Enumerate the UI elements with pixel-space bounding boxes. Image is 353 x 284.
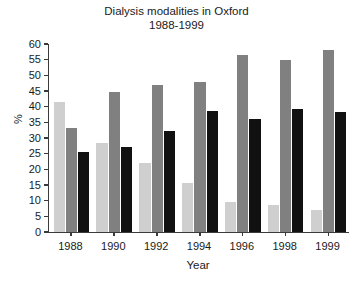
bar-series-3-black-1998 <box>292 109 303 232</box>
bar-series-2-medium-gray-1992 <box>152 85 163 232</box>
x-axis-tick-label: 1990 <box>101 240 125 253</box>
y-axis-tick-label: 0 <box>35 226 44 237</box>
bar-series-3-black-1992 <box>164 131 175 232</box>
x-axis-tick-label: 1994 <box>187 240 211 253</box>
bar-series-1-light-gray-1988 <box>54 102 65 232</box>
bar-group <box>225 44 261 232</box>
x-axis-tick-label: 1992 <box>144 240 168 253</box>
y-axis-tick-label: 5 <box>35 210 44 221</box>
bars-container <box>49 44 349 232</box>
bar-series-1-light-gray-1996 <box>225 202 236 232</box>
x-axis-labels: 1988199019921994199619981999 <box>48 240 348 256</box>
bar-series-2-medium-gray-1994 <box>194 82 205 232</box>
x-axis-tick-label: 1998 <box>272 240 296 253</box>
y-axis-tick-label: 35 <box>29 116 44 127</box>
x-axis-tick-mark <box>199 232 201 236</box>
bar-series-1-light-gray-1992 <box>139 163 150 232</box>
y-axis-tick-label: 30 <box>29 132 44 143</box>
bar-group <box>54 44 90 232</box>
y-axis-tick-label: 10 <box>29 195 44 206</box>
bar-series-3-black-1988 <box>78 152 89 232</box>
bar-series-1-light-gray-1990 <box>96 143 107 232</box>
x-axis-ticks <box>48 232 348 240</box>
bar-series-1-light-gray-1994 <box>182 183 193 233</box>
x-axis-tick-label: 1988 <box>58 240 82 253</box>
bar-series-2-medium-gray-1999 <box>323 50 334 232</box>
x-axis-title: Year <box>48 259 348 271</box>
x-axis-tick-mark <box>242 232 244 236</box>
y-axis-tick-label: 60 <box>29 38 44 49</box>
chart-title-line-2: 1988-1999 <box>0 19 353 33</box>
bar-series-1-light-gray-1999 <box>311 210 322 232</box>
bar-series-1-light-gray-1998 <box>268 205 279 232</box>
y-axis-tick-label: 15 <box>29 179 44 190</box>
y-axis-tick-label: 55 <box>29 54 44 65</box>
bar-series-3-black-1996 <box>249 119 260 232</box>
y-axis-tick-label: 40 <box>29 101 44 112</box>
x-axis-tick-mark <box>328 232 330 236</box>
chart-title-line-1: Dialysis modalities in Oxford <box>0 5 353 19</box>
y-axis-tick-label: 50 <box>29 69 44 80</box>
x-axis-tick-mark <box>285 232 287 236</box>
bar-series-2-medium-gray-1990 <box>109 92 120 232</box>
bar-series-3-black-1994 <box>207 111 218 232</box>
x-axis-tick-label: 1999 <box>315 240 339 253</box>
y-axis-tick-label: 45 <box>29 85 44 96</box>
x-axis-tick-mark <box>113 232 115 236</box>
bar-series-3-black-1990 <box>121 147 132 232</box>
bar-group <box>96 44 132 232</box>
chart-title: Dialysis modalities in Oxford 1988-1999 <box>0 5 353 32</box>
y-axis-tick-label: 25 <box>29 148 44 159</box>
bar-series-2-medium-gray-1988 <box>66 128 77 232</box>
bar-group <box>268 44 304 232</box>
x-axis-tick-mark <box>156 232 158 236</box>
bar-series-2-medium-gray-1996 <box>237 55 248 232</box>
bar-group <box>139 44 175 232</box>
y-axis-tick-label: 20 <box>29 163 44 174</box>
plot-area <box>48 44 349 233</box>
bar-series-2-medium-gray-1998 <box>280 60 291 232</box>
bar-series-3-black-1999 <box>335 112 346 232</box>
bar-group <box>311 44 347 232</box>
x-axis-tick-mark <box>70 232 72 236</box>
x-axis-tick-label: 1996 <box>230 240 254 253</box>
bar-chart: Dialysis modalities in Oxford 1988-1999 … <box>0 0 353 284</box>
bar-group <box>182 44 218 232</box>
y-axis-ticks: 051015202530354045505560 <box>0 44 48 232</box>
